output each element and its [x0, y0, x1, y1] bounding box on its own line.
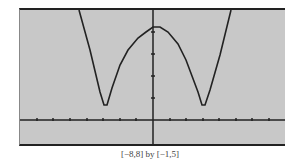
- function-curve: [79, 10, 231, 105]
- calculator-screen: [19, 8, 285, 146]
- window-caption: [−8,8] by [−1,5]: [0, 149, 300, 159]
- graph-plot: [20, 10, 285, 144]
